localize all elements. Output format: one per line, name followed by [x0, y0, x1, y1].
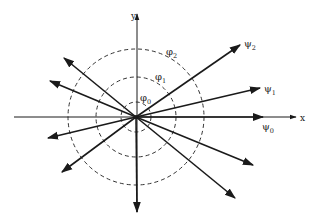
vector-v-down-arrow	[136, 117, 137, 212]
label-phi1: φ1	[155, 71, 166, 85]
label-psi0: ψ0	[262, 121, 274, 135]
label-psi1: ψ1	[264, 83, 276, 97]
origin-dot	[134, 115, 138, 119]
label-phi0: φ0	[140, 92, 151, 106]
diagram-canvas: xyφ0φ1φ2ψ0ψ1ψ2	[0, 0, 317, 222]
y-axis-label: y	[130, 11, 137, 21]
vector-v-ul-2-arrow	[50, 81, 136, 117]
x-axis-label: x	[300, 113, 305, 123]
label-psi2: ψ2	[244, 38, 256, 52]
vector-psi1-arrow	[136, 88, 260, 117]
vector-psi2-arrow	[136, 45, 240, 117]
vector-v-lr-2-arrow	[136, 117, 235, 198]
vector-v-lr-1-arrow	[136, 117, 253, 165]
vector-v-ul-1-arrow	[64, 58, 136, 117]
label-phi2: φ2	[166, 46, 177, 60]
